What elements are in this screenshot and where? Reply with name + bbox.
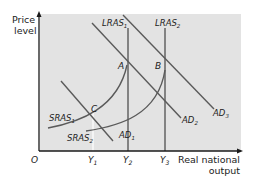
x-axis-label-line1: Real national bbox=[178, 154, 240, 165]
tick-y3: Y3 bbox=[160, 155, 170, 166]
tick-y1: Y1 bbox=[88, 155, 97, 166]
sras1-label: SRAS1 bbox=[49, 113, 75, 124]
point-a-label: A bbox=[117, 61, 124, 71]
ad-as-diagram: Price level Real national output O Y1 Y2… bbox=[0, 0, 255, 179]
x-axis-label-line2: output bbox=[209, 165, 241, 176]
point-c-label: C bbox=[91, 104, 98, 114]
tick-y2: Y2 bbox=[123, 155, 133, 166]
lras1-label: LRAS1 bbox=[102, 18, 127, 29]
plot-panel bbox=[40, 14, 241, 151]
y-axis-label-line1: Price bbox=[12, 14, 35, 25]
origin-label: O bbox=[31, 155, 38, 165]
y-axis-label-line2: level bbox=[14, 25, 37, 36]
point-b-label: B bbox=[155, 61, 161, 71]
